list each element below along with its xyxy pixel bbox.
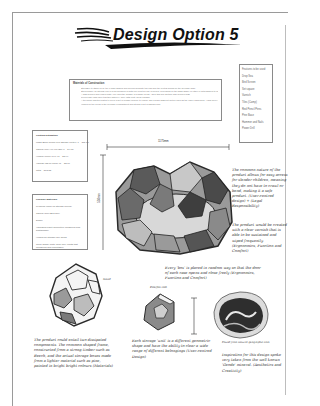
height-dimension-label: 550mm	[97, 193, 101, 202]
title-banner: Design Option 5	[75, 23, 245, 51]
page-title: Design Option 5	[113, 26, 239, 44]
list-item: Power Drill	[242, 126, 270, 133]
storage-unit-sketch	[140, 290, 180, 334]
list-item: Dowel	[36, 219, 84, 222]
note-box-placement: Every 'box' is placed in random way so t…	[165, 266, 265, 282]
note-components: The product could entail two dissipated …	[34, 338, 114, 369]
list-item: Varnishes paint (Reflective measures and…	[36, 226, 84, 232]
cost-row: Hinges (Piece of 6) x1 = £3.99	[36, 155, 84, 158]
note-varnish: The product would be created with a clea…	[232, 223, 288, 254]
cost-row: Varnish (£3.60 each) x1 = £3.60	[36, 162, 84, 165]
geode-caption: Found from natural geographic.com	[222, 341, 270, 344]
list-item: Hammer and Nails	[242, 120, 270, 127]
list-item: Bird Screen	[242, 80, 270, 87]
stand-label: Stand	[103, 278, 111, 281]
geode-image	[210, 290, 270, 340]
materials-heading: Materials of Construction	[73, 82, 218, 85]
note-access: The common nature of the product allows …	[232, 168, 288, 210]
list-item: Varnish	[242, 93, 270, 100]
list-item: Red Pencil Pens	[242, 107, 270, 114]
main-storage-sketch	[110, 150, 235, 255]
right-margin-rule	[285, 25, 286, 395]
materials-of-construction-box: Materials of Construction Stool/Box to s…	[69, 79, 222, 121]
list-item: Clear glossy mate (seal coil) (Parts tha…	[36, 243, 84, 249]
costing-estimation-box: Costing Estimation Mass Birch 16mm (Per …	[32, 130, 88, 182]
pole-tab-label: Pole/flat slab	[150, 286, 167, 289]
list-item: Tiles (Camp)	[242, 100, 270, 107]
list-item: Plywood (6mm for storage boxes)	[36, 205, 84, 208]
list-item: Pine Base	[242, 113, 270, 120]
width-dimension-label: 1175mm	[158, 139, 169, 143]
note-storage-units: Each storage 'unit' is a different geome…	[132, 339, 212, 360]
list-item: Drop Sea	[242, 74, 270, 81]
cost-row: Jarrold (W0+H0+L0)(3m) 1 = £4.13	[36, 148, 84, 151]
height-dimension-line	[100, 155, 106, 250]
frame-sketch	[48, 258, 104, 330]
list-item: Hinges for the doors of the Teenage comp…	[81, 103, 218, 106]
cost-total: Total = £13.53	[36, 169, 84, 172]
list-item: Set square	[242, 87, 270, 94]
possible-materials-heading: Possible Materials:	[36, 198, 84, 201]
small-height-dimension-line	[191, 298, 197, 334]
materials-list: Stool/Box to stand on by the 7 main shap…	[73, 87, 218, 106]
features-heading: Features to be used:	[242, 67, 270, 74]
note-inspiration: Inspiration for this design spoke very t…	[222, 353, 282, 374]
features-box: Features to be used: Drop Sea Bird Scree…	[239, 64, 273, 143]
costing-heading: Costing Estimation	[36, 134, 84, 137]
list-item: Hinges for storage box doors	[36, 236, 84, 239]
possible-materials-box: Possible Materials: Plywood (6mm for sto…	[32, 194, 88, 250]
list-item: Jarrold (Jelly/Bird box)	[36, 212, 84, 215]
cost-row: Mass Birch 16mm (Per Square Meter): 1 = …	[36, 141, 84, 144]
